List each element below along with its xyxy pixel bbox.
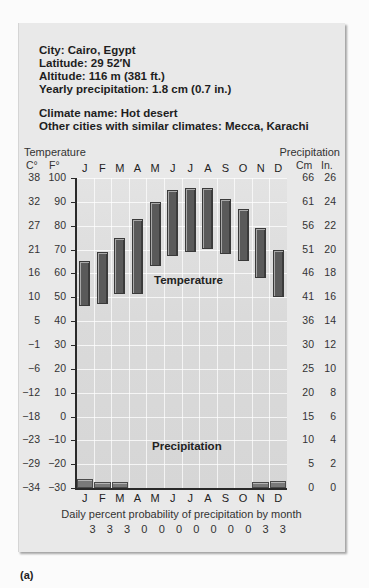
probability-value: 0 <box>136 523 153 535</box>
inch-tick-label: 6 <box>316 410 336 422</box>
probability-value: 0 <box>153 523 170 535</box>
grid-line-vertical <box>129 178 130 489</box>
inch-tick-label: 16 <box>316 290 336 302</box>
probability-value: 3 <box>84 523 101 535</box>
cm-tick-label: 61 <box>294 195 314 207</box>
cm-tick-label: 5 <box>294 457 314 469</box>
inch-tick-label: 12 <box>316 338 336 350</box>
inch-tick-label: 18 <box>316 266 336 278</box>
inch-unit: In. <box>321 159 333 171</box>
plot-area: Temperature Precipitation <box>76 178 287 489</box>
grid-line-vertical <box>111 178 112 489</box>
cm-tick-label: 56 <box>294 219 314 231</box>
celsius-tick-label: 16 <box>14 266 40 278</box>
temperature-bar <box>202 188 213 250</box>
precipitation-label: Precipitation <box>152 440 222 452</box>
cm-unit: Cm <box>296 159 312 171</box>
temperature-bar <box>255 228 266 278</box>
temperature-bar <box>185 188 196 252</box>
grid-line-vertical <box>252 178 253 489</box>
temperature-bar <box>132 219 143 295</box>
y-tick-mark <box>71 488 76 489</box>
inch-tick-label: 2 <box>316 457 336 469</box>
fahrenheit-tick-label: 20 <box>42 362 66 374</box>
temperature-bar <box>167 190 178 256</box>
fahrenheit-tick-label: 100 <box>42 171 66 183</box>
precipitation-axis-title: Precipitation <box>279 146 340 158</box>
fahrenheit-tick-label: 60 <box>42 266 66 278</box>
fahrenheit-tick-label: 40 <box>42 314 66 326</box>
probability-value: 3 <box>257 523 274 535</box>
fahrenheit-tick-label: 30 <box>42 338 66 350</box>
grid-line-vertical <box>94 178 95 489</box>
month-label-bottom: J <box>182 492 199 504</box>
inch-tick-label: 26 <box>316 171 336 183</box>
grid-line-vertical <box>146 178 147 489</box>
y-tick-mark <box>71 297 76 298</box>
probability-value: 0 <box>222 523 239 535</box>
inch-tick-label: 8 <box>316 386 336 398</box>
fahrenheit-tick-label: 10 <box>42 386 66 398</box>
cm-tick-label: 46 <box>294 266 314 278</box>
celsius-unit: C° <box>26 159 38 171</box>
temperature-label: Temperature <box>154 274 223 286</box>
celsius-tick-label: −1 <box>14 338 40 350</box>
cm-tick-label: 15 <box>294 410 314 422</box>
y-tick-mark <box>71 273 76 274</box>
y-tick-mark <box>71 369 76 370</box>
cm-tick-label: 0 <box>294 481 314 493</box>
probability-value: 0 <box>240 523 257 535</box>
temperature-bar <box>150 202 161 266</box>
grid-line-vertical <box>269 178 270 489</box>
fahrenheit-tick-label: 90 <box>42 195 66 207</box>
month-label-bottom: M <box>111 492 128 504</box>
inch-tick-label: 24 <box>316 195 336 207</box>
temperature-bar <box>97 252 108 304</box>
precipitation-bar <box>270 481 287 489</box>
celsius-tick-label: −29 <box>14 457 40 469</box>
month-label-bottom: O <box>235 492 252 504</box>
cm-tick-label: 20 <box>294 386 314 398</box>
climate-name: Climate name: Hot desert <box>39 107 309 120</box>
inch-tick-label: 4 <box>316 433 336 445</box>
month-label-bottom: S <box>217 492 234 504</box>
month-label-top: F <box>94 162 111 174</box>
celsius-tick-label: −34 <box>14 481 40 493</box>
probability-value: 3 <box>101 523 118 535</box>
celsius-tick-label: 38 <box>14 171 40 183</box>
month-label-bottom: J <box>164 492 181 504</box>
fahrenheit-tick-label: 50 <box>42 290 66 302</box>
month-label-top: J <box>182 162 199 174</box>
temperature-bar <box>79 261 90 306</box>
cm-tick-label: 41 <box>294 290 314 302</box>
month-label-top: N <box>252 162 269 174</box>
month-label-bottom: M <box>147 492 164 504</box>
inch-tick-label: 22 <box>316 219 336 231</box>
latitude: Latitude: 29 52′N <box>39 57 309 70</box>
altitude: Altitude: 116 m (381 ft.) <box>39 70 309 83</box>
climate-card: City: Cairo, Egypt Latitude: 29 52′N Alt… <box>18 23 345 552</box>
inch-tick-label: 14 <box>316 314 336 326</box>
cm-tick-label: 66 <box>294 171 314 183</box>
temperature-axis-title: Temperature <box>24 146 86 158</box>
y-tick-mark <box>71 440 76 441</box>
month-label-top: A <box>129 162 146 174</box>
month-label-top: A <box>199 162 216 174</box>
cm-tick-label: 51 <box>294 243 314 255</box>
fahrenheit-tick-label: −30 <box>42 481 66 493</box>
month-label-bottom: J <box>76 492 93 504</box>
celsius-tick-label: 32 <box>14 195 40 207</box>
inch-tick-label: 10 <box>316 362 336 374</box>
probability-value: 3 <box>274 523 291 535</box>
fahrenheit-tick-label: 70 <box>42 243 66 255</box>
month-label-top: M <box>111 162 128 174</box>
y-tick-mark <box>71 202 76 203</box>
celsius-tick-label: −6 <box>14 362 40 374</box>
probability-value: 0 <box>205 523 222 535</box>
grid-line-vertical <box>234 178 235 489</box>
inch-tick-label: 0 <box>316 481 336 493</box>
month-label-bottom: F <box>94 492 111 504</box>
fahrenheit-tick-label: 80 <box>42 219 66 231</box>
fahrenheit-tick-label: 0 <box>42 410 66 422</box>
month-label-top: O <box>235 162 252 174</box>
